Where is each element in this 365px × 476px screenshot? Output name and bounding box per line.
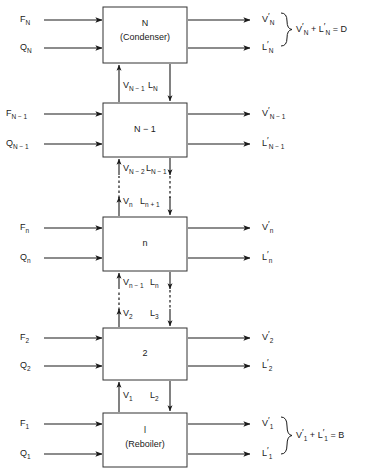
stage-N-number: N [142,18,149,28]
stage-2-feed-label: F2 [20,332,30,343]
stage-2-group: 2 F2 Q2 V′2 L′2 [20,328,274,380]
stage-1-liquid-out-label: L′1 [262,445,273,459]
stage-n-feed-label: Fn [20,222,30,233]
interstage-2-to-1: V1 L2 [119,381,170,412]
diagram-canvas: N (Condenser) FN QN V′N L′N V′N [0,0,365,476]
stage-N1-number: N − 1 [134,124,156,134]
top-equation: V′N + L′N = D [296,21,347,35]
vapor-riser-N-2-label: VN − 2 [123,163,145,174]
stage-2-number: 2 [142,348,147,358]
vapor-riser-n-1-label: Vn − 1 [123,277,144,288]
stage-2-liquid-out-label: L′2 [262,357,273,371]
liquid-downcomer-n-label: Ln [150,277,159,288]
interstage-N-to-N1: VN − 1 LN [119,64,170,102]
process-flow-diagram: N (Condenser) FN QN V′N L′N V′N [0,0,365,476]
stage-n-group: n Fn Qn V′n L′n [20,217,274,271]
stage-N-group: N (Condenser) FN QN V′N L′N V′N [20,7,347,63]
stage-1-feed-label: F1 [20,418,30,429]
stage-N-feed-label: FN [20,14,31,25]
stage-N-liquid-out-label: L′N [262,39,274,53]
interstage-n-to-2: Vn − 1 Ln V2 L3 [119,272,170,327]
bottom-brace [281,417,292,454]
stage-1-vapor-out-label: V′1 [262,415,274,429]
stage-1-heat-label: Q1 [20,448,31,459]
stage-1-sublabel: (Reboiler) [125,439,165,449]
stage-n-vapor-out-label: V′n [262,219,274,233]
top-brace [281,13,292,46]
vapor-riser-n-label: Vn [123,196,133,207]
liquid-downcomer-2-label: L2 [150,390,159,401]
stage-N1-liquid-out-label: L′N − 1 [262,135,285,149]
interstage-N1-to-n: VN − 2 LN − 1 Vn Ln + 1 [119,158,170,216]
vapor-riser-N-1-label: VN − 1 [123,80,145,91]
stage-1-group: l (Reboiler) F1 Q1 V′1 L′1 V′1 + L′1 = B [20,413,344,467]
stage-N1-group: N − 1 FN − 1 QN − 1 V′N − 1 L′N − 1 [6,103,286,157]
stage-N1-vapor-out-label: V′N − 1 [262,105,286,119]
stage-N-vapor-out-label: V′N [262,11,275,25]
bottom-equation: V′1 + L′1 = B [296,427,344,441]
vapor-riser-2-label: V2 [123,308,133,319]
stage-n-heat-label: Qn [20,252,31,263]
liquid-downcomer-N-label: LN [148,80,158,91]
stage-2-heat-label: Q2 [20,360,31,371]
stage-N1-feed-label: FN − 1 [6,108,28,119]
stage-n-number: n [142,238,147,248]
stage-2-vapor-out-label: V′2 [262,329,274,343]
stage-N1-heat-label: QN − 1 [6,138,29,149]
stage-1-number: l [144,425,146,435]
vapor-riser-1-label: V1 [123,390,133,401]
liquid-downcomer-N1-label: LN − 1 [146,163,167,174]
stage-N-heat-label: QN [20,42,32,53]
liquid-downcomer-3-label: L3 [150,308,159,319]
stage-n-liquid-out-label: L′n [262,249,273,263]
stage-N-sublabel: (Condenser) [120,32,170,42]
liquid-downcomer-n1-label: Ln + 1 [140,196,160,207]
